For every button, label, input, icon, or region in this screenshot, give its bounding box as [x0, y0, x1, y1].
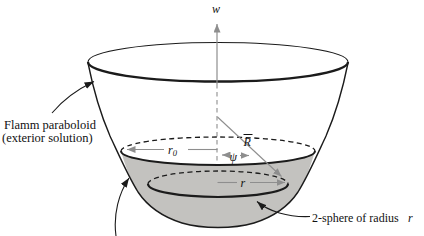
- bowl-rim-front-edge: [88, 62, 348, 82]
- r-label: r: [241, 176, 246, 190]
- w-axis-label: w: [212, 2, 220, 16]
- exterior-solution-label: (exterior solution): [2, 131, 93, 145]
- two-sphere-label: 2-sphere of radiusr: [312, 211, 413, 225]
- sphere-cap-fill: [121, 151, 315, 228]
- flamm-paraboloid-label: Flamm paraboloid: [4, 118, 97, 132]
- psi-label: ψ: [230, 150, 238, 164]
- r0-subscript: 0: [173, 148, 178, 158]
- diagram-canvas: w Flamm paraboloid (exterior solution) r…: [0, 0, 424, 236]
- two-sphere-radius-symbol: r: [408, 211, 413, 225]
- bowl-rim-back-edge: [88, 43, 348, 63]
- radius-of-curvature-label: R: [243, 135, 252, 149]
- r0-label: r0: [168, 143, 178, 159]
- bottom-callout-arrow: [115, 178, 129, 236]
- r0-circle-back-dashed: [121, 137, 315, 151]
- flamm-paraboloid-diagram: w Flamm paraboloid (exterior solution) r…: [0, 0, 424, 236]
- flamm-callout-arrow: [52, 82, 94, 114]
